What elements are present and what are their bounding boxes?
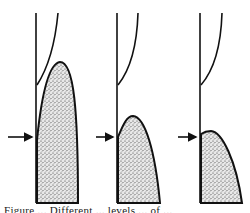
panel-3 [178, 13, 242, 203]
stippled-region [37, 62, 78, 203]
stippled-region [118, 116, 160, 203]
upper-curve [201, 13, 222, 85]
figure-caption: Figure ... Different ... levels ... of .… [4, 204, 250, 213]
upper-curve [118, 13, 138, 85]
panel-1 [8, 13, 78, 203]
panel-2 [96, 13, 160, 203]
diagram-figure [0, 0, 250, 213]
stippled-region [201, 131, 242, 203]
